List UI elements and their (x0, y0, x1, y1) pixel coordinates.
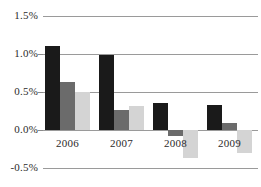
bar-2006-series-2 (60, 82, 75, 130)
plot-area (0, 0, 261, 187)
x-axis-label-2009: 2009 (201, 138, 258, 149)
x-axis-label-2007: 2007 (93, 138, 150, 149)
bar-2008-series-1 (153, 103, 168, 130)
bar-2007-series-3 (129, 106, 144, 130)
bar-chart: 1.5%1.0%0.5%0.0%-0.5% 2006200720082009 (0, 0, 261, 187)
x-axis-label-2008: 2008 (147, 138, 204, 149)
bar-2006-series-3 (75, 92, 90, 130)
bar-2009-series-1 (207, 105, 222, 130)
x-axis-label-2006: 2006 (39, 138, 96, 149)
bar-2007-series-1 (99, 55, 114, 130)
bar-2009-series-2 (222, 123, 237, 130)
bar-2006-series-1 (45, 46, 60, 130)
bar-2007-series-2 (114, 110, 129, 130)
bar-2008-series-2 (168, 130, 183, 136)
